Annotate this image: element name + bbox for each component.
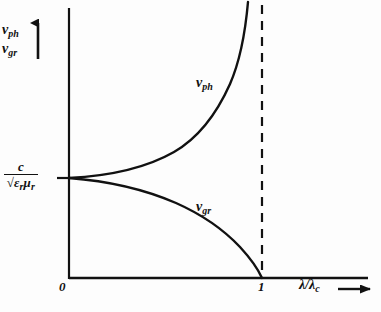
mu-symbol: μ	[24, 175, 31, 190]
x-axis-tick-1: 1	[258, 280, 265, 293]
curve-label-vgr-sub: gr	[202, 205, 211, 216]
radical-sign: √	[7, 175, 14, 190]
reference-numerator: c	[4, 160, 38, 175]
curve-label-vph: vph	[196, 76, 213, 92]
x-axis-label-sub: c	[315, 283, 319, 294]
y-axis-label-vgr: vgr	[2, 42, 19, 58]
y-axis-label-vgr-sub: gr	[8, 47, 17, 58]
x-axis-label-base: λ/λ	[299, 277, 315, 292]
curve-label-vgr: vgr	[196, 200, 211, 216]
curve-label-vph-sub: ph	[202, 81, 213, 92]
y-axis-label: vph vgr	[2, 23, 19, 61]
figure-canvas: vph vgr c √εrμr vph vgr 0 1 λ/λc	[0, 0, 381, 312]
reference-denominator: √εrμr	[4, 175, 38, 192]
x-axis-label: λ/λc	[299, 278, 320, 294]
y-axis-label-vph: vph	[2, 23, 19, 39]
y-axis-label-vph-sub: ph	[8, 28, 19, 39]
plot-area	[0, 0, 381, 312]
y-axis-reference-value: c √εrμr	[4, 160, 38, 192]
curve-vgr	[69, 178, 262, 278]
x-axis-tick-0: 0	[59, 280, 66, 293]
curve-vph	[69, 2, 248, 178]
mu-subscript: r	[31, 181, 35, 192]
